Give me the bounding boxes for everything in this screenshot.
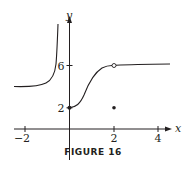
x-axis-label: x bbox=[175, 122, 182, 135]
chart: −2 2 4 6 2 x y FIGURE 16 bbox=[0, 0, 183, 169]
x-tick-label: 4 bbox=[155, 132, 162, 145]
y-axis-label: y bbox=[65, 9, 73, 22]
x-axis-arrow-icon bbox=[165, 127, 172, 132]
filled-point-2-2 bbox=[112, 106, 116, 110]
y-tick-label: 2 bbox=[58, 102, 65, 115]
open-point-2-6 bbox=[112, 64, 116, 68]
y-tick-label: 6 bbox=[58, 60, 65, 73]
left-branch-curve bbox=[14, 24, 58, 87]
right-branch-tail bbox=[116, 64, 170, 65]
figure-caption: FIGURE 16 bbox=[64, 147, 121, 157]
x-tick-label: 2 bbox=[111, 132, 118, 145]
x-tick-label: −2 bbox=[14, 132, 30, 145]
filled-point-0-2 bbox=[68, 106, 72, 110]
right-branch-curve bbox=[70, 66, 113, 108]
